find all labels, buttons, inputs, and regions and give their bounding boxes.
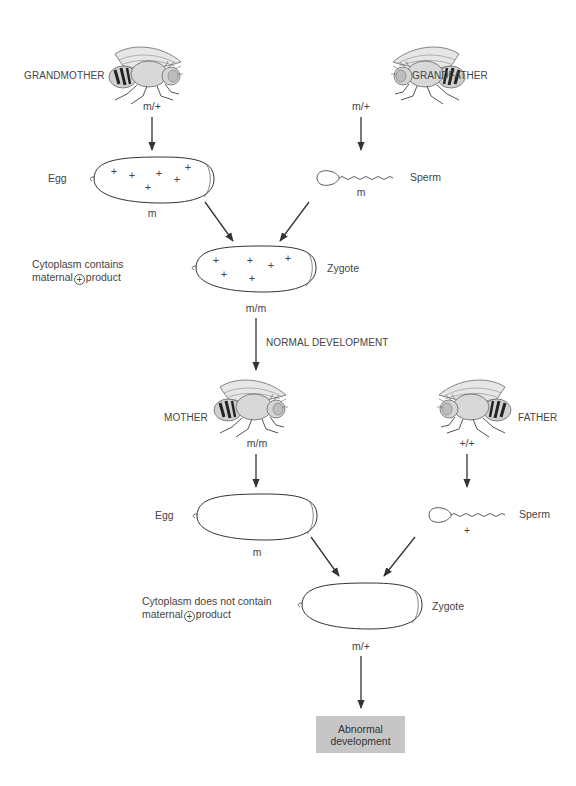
- zygote-genotype: m/m: [246, 302, 266, 314]
- svg-text:+: +: [285, 252, 291, 264]
- svg-text:+: +: [249, 272, 255, 284]
- zygote-caption-pre: maternal: [142, 608, 183, 620]
- zygote-caption-pre: maternal: [32, 271, 73, 283]
- grandmother-fly-icon: [109, 47, 183, 104]
- egg-label: Egg: [48, 172, 67, 184]
- grandfather-label: GRANDFATHER: [412, 70, 488, 82]
- father-genotype: +/+: [459, 437, 474, 449]
- sperm-icon: [317, 171, 393, 186]
- mother-fly-icon: [214, 380, 288, 437]
- sperm-label: Sperm: [410, 171, 441, 183]
- mother-genotype: m/m: [247, 437, 267, 449]
- svg-text:+: +: [247, 254, 253, 266]
- svg-text:+: +: [185, 161, 191, 173]
- sperm-genotype: +: [464, 524, 470, 536]
- father-fly-icon: [437, 380, 511, 437]
- svg-text:+: +: [213, 254, 219, 266]
- zygote-caption-post: product: [196, 608, 231, 620]
- zygote-with-product-icon: +++ +++: [192, 246, 316, 292]
- circled-plus-icon: +: [74, 274, 85, 285]
- svg-text:+: +: [174, 173, 180, 185]
- mother-label: MOTHER: [164, 412, 208, 424]
- circled-plus-icon: +: [184, 611, 195, 622]
- zygote-genotype: m/+: [352, 640, 370, 652]
- zygote-caption-line1: Cytoplasm contains: [32, 258, 124, 271]
- sperm-genotype: m: [357, 186, 366, 198]
- sperm-label: Sperm: [519, 508, 550, 520]
- zygote-caption-line1: Cytoplasm does not contain: [142, 595, 272, 608]
- egg-label: Egg: [155, 509, 174, 521]
- arrow-sperm-to-zygote: [280, 202, 309, 241]
- svg-text:+: +: [156, 167, 162, 179]
- egg-genotype: m: [148, 207, 157, 219]
- grandmother-genotype: m/+: [143, 100, 161, 112]
- outcome-line1: Abnormal: [330, 723, 390, 735]
- arrow-egg-to-zygote: [311, 537, 339, 576]
- zygote-caption: Cytoplasm does not contain maternal+prod…: [142, 595, 272, 622]
- zygote-without-product-icon: [298, 583, 422, 629]
- outcome-line2: development: [330, 735, 390, 747]
- abnormal-development-box: Abnormal development: [316, 716, 405, 753]
- normal-development-label: NORMAL DEVELOPMENT: [266, 337, 389, 349]
- arrow-sperm-to-zygote: [384, 537, 415, 576]
- svg-text:+: +: [221, 268, 227, 280]
- svg-text:+: +: [111, 165, 117, 177]
- zygote-label: Zygote: [327, 262, 359, 274]
- svg-text:+: +: [268, 259, 274, 271]
- egg-with-product-icon: +++ +++: [90, 157, 214, 203]
- grandmother-label: GRANDMOTHER: [24, 70, 105, 82]
- svg-text:+: +: [129, 169, 135, 181]
- egg-without-product-icon: [193, 494, 317, 540]
- sperm-icon: [429, 508, 505, 523]
- grandfather-genotype: m/+: [352, 100, 370, 112]
- egg-genotype: m: [253, 546, 262, 558]
- arrow-egg-to-zygote: [205, 202, 233, 241]
- zygote-caption-post: product: [86, 271, 121, 283]
- zygote-caption: Cytoplasm contains maternal+product: [32, 258, 124, 285]
- zygote-label: Zygote: [432, 600, 464, 612]
- father-label: FATHER: [518, 412, 557, 424]
- svg-text:+: +: [145, 181, 151, 193]
